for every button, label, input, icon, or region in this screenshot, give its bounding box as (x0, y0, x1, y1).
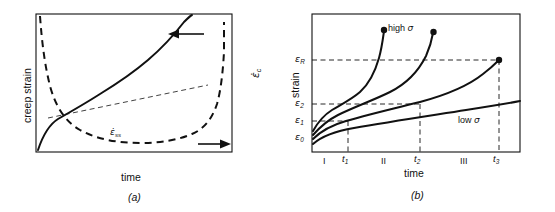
x-tick-t3-subscript: 3 (496, 158, 500, 165)
x-tick-t2-subscript: 2 (417, 158, 421, 165)
panel-a-creep-rate-axis-label: ε̇c (250, 69, 263, 78)
x-tick-t3: t3 (493, 154, 499, 165)
y-tick-epsilon-2-subscript: 2 (300, 102, 304, 109)
panel-a-x-axis-label: time (121, 172, 141, 183)
steady-state-creep-rate-label: ε̇ss (110, 128, 121, 138)
low-stress-annotation: low σ (458, 116, 480, 125)
y-tick-epsilon-1-subscript: 1 (300, 119, 304, 126)
y-tick-epsilon-1: ε1 (295, 115, 304, 126)
y-tick-epsilon-0-subscript: 0 (300, 136, 304, 143)
arrow-to-right-axis (198, 140, 231, 149)
panel-b-y-axis-label: strain (290, 72, 301, 98)
low-stress-sigma-symbol: σ (474, 115, 480, 125)
panel-b-caption: (b) (411, 190, 424, 201)
y-tick-epsilon-R: εR (295, 54, 305, 65)
epsilon-dot-c-subscript: c (255, 69, 263, 73)
low-stress-annotation-text: low (458, 115, 474, 125)
rupture-dot-high-stress (381, 27, 387, 33)
stage-label-III: III (460, 157, 468, 166)
arrow-to-left-axis (168, 30, 204, 39)
panel-a-caption: (a) (128, 192, 141, 203)
creep-rate-curve (40, 16, 224, 143)
high-stress-annotation-text: high (388, 23, 408, 33)
panel-b-x-axis-label: time (404, 168, 424, 179)
epsilon-dot-ss-subscript: ss (115, 131, 121, 138)
panel-a-y-axis-label: creep strain (22, 68, 33, 123)
curve-high-stress (313, 31, 384, 131)
panel-b-plot (278, 0, 555, 212)
x-tick-t2: t2 (414, 154, 420, 165)
x-tick-t1: t1 (342, 154, 348, 165)
stage-label-I: I (323, 157, 326, 166)
y-tick-epsilon-R-subscript: R (300, 58, 305, 65)
y-tick-epsilon-2: ε2 (295, 98, 304, 109)
high-stress-annotation: high σ (388, 24, 413, 33)
panel-b: strain εR ε2 ε1 ε0 high σ low σ I II III… (278, 0, 555, 212)
high-stress-sigma-symbol: σ (408, 23, 414, 33)
secondary-stage-tangent (48, 85, 208, 118)
stage-label-II: II (381, 157, 386, 166)
rupture-dot-medium-high-stress (430, 29, 436, 35)
creep-figure: creep strain ε̇c ε̇ss time (a) (0, 0, 555, 212)
y-tick-epsilon-0: ε0 (295, 132, 304, 143)
rupture-dot-medium-low-stress (496, 57, 502, 63)
curve-medium-high-stress (313, 33, 433, 135)
plot-frame-b (312, 14, 520, 152)
x-tick-t1-subscript: 1 (345, 158, 349, 165)
epsilon-dot-c-symbol: ε̇ (249, 72, 261, 78)
curve-medium-low-stress (313, 60, 499, 139)
panel-a: creep strain ε̇c ε̇ss time (a) (0, 0, 278, 212)
